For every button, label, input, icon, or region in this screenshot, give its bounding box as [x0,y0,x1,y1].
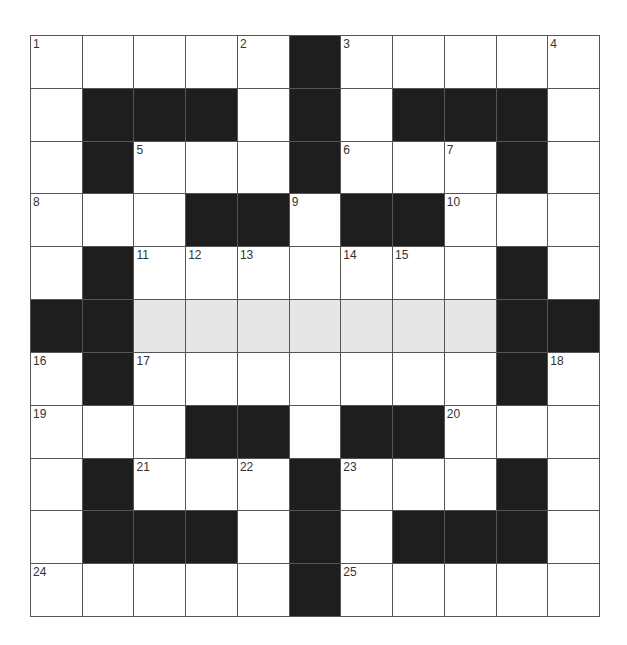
answer-cell[interactable] [31,142,82,194]
answer-cell[interactable] [548,564,599,616]
answer-cell[interactable]: 1 [31,36,82,88]
answer-cell[interactable]: 23 [341,459,392,511]
answer-cell[interactable]: 25 [341,564,392,616]
answer-cell[interactable]: 5 [134,142,185,194]
black-square [83,142,134,194]
black-square [497,300,548,352]
answer-cell[interactable]: 6 [341,142,392,194]
answer-cell[interactable]: 8 [31,194,82,246]
answer-cell[interactable]: 21 [134,459,185,511]
answer-cell[interactable] [186,564,237,616]
answer-cell[interactable] [186,142,237,194]
answer-cell[interactable] [548,89,599,141]
black-square [290,142,341,194]
answer-cell[interactable] [445,353,496,405]
answer-cell[interactable]: 16 [31,353,82,405]
answer-cell[interactable] [238,89,289,141]
black-square [445,89,496,141]
answer-cell[interactable] [445,564,496,616]
answer-cell[interactable] [186,459,237,511]
clue-number: 8 [33,196,40,208]
shaded-answer-cell[interactable] [238,300,289,352]
answer-cell[interactable]: 3 [341,36,392,88]
answer-cell[interactable]: 12 [186,247,237,299]
shaded-answer-cell[interactable] [341,300,392,352]
answer-cell[interactable] [548,406,599,458]
answer-cell[interactable] [238,353,289,405]
answer-cell[interactable] [497,194,548,246]
answer-cell[interactable] [83,406,134,458]
answer-cell[interactable]: 17 [134,353,185,405]
answer-cell[interactable] [31,247,82,299]
answer-cell[interactable] [83,36,134,88]
answer-cell[interactable] [31,89,82,141]
answer-cell[interactable] [134,36,185,88]
answer-cell[interactable] [31,511,82,563]
shaded-answer-cell[interactable] [445,300,496,352]
answer-cell[interactable] [497,36,548,88]
answer-cell[interactable]: 2 [238,36,289,88]
answer-cell[interactable] [497,406,548,458]
shaded-answer-cell[interactable] [186,300,237,352]
answer-cell[interactable]: 15 [393,247,444,299]
clue-number: 10 [447,196,460,208]
answer-cell[interactable] [393,459,444,511]
answer-cell[interactable] [83,564,134,616]
shaded-answer-cell[interactable] [393,300,444,352]
answer-cell[interactable] [497,564,548,616]
black-square [341,406,392,458]
answer-cell[interactable] [445,459,496,511]
answer-cell[interactable]: 22 [238,459,289,511]
answer-cell[interactable] [186,353,237,405]
black-square [83,247,134,299]
answer-cell[interactable] [445,36,496,88]
answer-cell[interactable] [83,194,134,246]
answer-cell[interactable]: 14 [341,247,392,299]
answer-cell[interactable] [186,36,237,88]
answer-cell[interactable]: 19 [31,406,82,458]
answer-cell[interactable] [134,406,185,458]
answer-cell[interactable] [238,142,289,194]
answer-cell[interactable] [31,459,82,511]
shaded-answer-cell[interactable] [134,300,185,352]
answer-cell[interactable]: 10 [445,194,496,246]
shaded-answer-cell[interactable] [290,300,341,352]
answer-cell[interactable] [341,89,392,141]
answer-cell[interactable] [238,564,289,616]
answer-cell[interactable] [393,36,444,88]
answer-cell[interactable] [548,247,599,299]
answer-cell[interactable]: 13 [238,247,289,299]
answer-cell[interactable] [290,247,341,299]
answer-cell[interactable] [134,564,185,616]
answer-cell[interactable] [341,353,392,405]
answer-cell[interactable] [393,142,444,194]
black-square [497,89,548,141]
answer-cell[interactable] [393,564,444,616]
answer-cell[interactable] [290,353,341,405]
answer-cell[interactable]: 11 [134,247,185,299]
answer-cell[interactable] [445,247,496,299]
answer-cell[interactable] [134,194,185,246]
answer-cell[interactable] [548,142,599,194]
answer-cell[interactable] [290,406,341,458]
answer-cell[interactable] [548,459,599,511]
answer-cell[interactable] [548,511,599,563]
black-square [134,511,185,563]
clue-number: 2 [240,38,247,50]
black-square [497,142,548,194]
answer-cell[interactable]: 18 [548,353,599,405]
answer-cell[interactable]: 7 [445,142,496,194]
answer-cell[interactable]: 4 [548,36,599,88]
clue-number: 15 [395,249,408,261]
black-square [238,406,289,458]
answer-cell[interactable]: 24 [31,564,82,616]
black-square [31,300,82,352]
answer-cell[interactable] [548,194,599,246]
answer-cell[interactable] [341,511,392,563]
black-square [83,459,134,511]
answer-cell[interactable] [393,353,444,405]
clue-number: 16 [33,355,46,367]
answer-cell[interactable] [238,511,289,563]
answer-cell[interactable]: 9 [290,194,341,246]
answer-cell[interactable]: 20 [445,406,496,458]
